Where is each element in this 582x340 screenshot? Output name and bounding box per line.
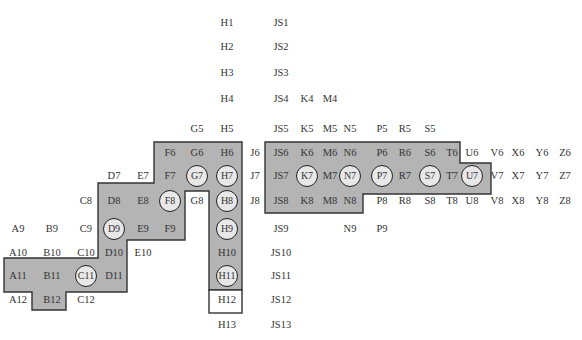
grid-label: JS1 <box>273 17 288 29</box>
grid-label: JS8 <box>273 195 288 207</box>
grid-label: H5 <box>221 123 234 135</box>
grid-label: E7 <box>137 170 149 182</box>
circled-grid-label: H9 <box>216 218 238 240</box>
grid-label: K5 <box>301 123 314 135</box>
grid-label: G5 <box>191 123 204 135</box>
circled-grid-label: H11 <box>216 265 238 287</box>
grid-label: B10 <box>43 247 61 259</box>
grid-label: JS5 <box>273 123 288 135</box>
grid-label: C8 <box>80 195 92 207</box>
grid-label: C9 <box>80 223 92 235</box>
grid-label: S8 <box>424 195 435 207</box>
grid-label: B9 <box>46 223 58 235</box>
grid-label: G8 <box>191 195 204 207</box>
grid-label: H4 <box>221 93 234 105</box>
grid-label: JS6 <box>273 147 288 159</box>
grid-label: P8 <box>376 195 387 207</box>
grid-label: B11 <box>43 270 60 282</box>
grid-label: R5 <box>399 123 411 135</box>
grid-label: G6 <box>191 147 204 159</box>
grid-label: A11 <box>9 270 27 282</box>
circled-grid-label: C11 <box>75 265 97 287</box>
grid-label: F6 <box>164 147 175 159</box>
grid-label: JS4 <box>273 93 288 105</box>
grid-label: S6 <box>424 147 435 159</box>
grid-label: Y8 <box>536 195 549 207</box>
grid-label: P9 <box>376 223 387 235</box>
circled-grid-label: N7 <box>339 165 361 187</box>
grid-label: U8 <box>466 195 479 207</box>
grid-label: JS9 <box>273 223 288 235</box>
grid-label: H6 <box>221 147 234 159</box>
grid-label: N9 <box>344 223 357 235</box>
circled-grid-label: H7 <box>216 165 238 187</box>
circled-grid-label: D9 <box>103 218 125 240</box>
grid-label: J8 <box>250 195 259 207</box>
grid-label: JS12 <box>271 294 291 306</box>
grid-label: Z6 <box>559 147 571 159</box>
grid-label: B12 <box>43 294 61 306</box>
grid-label: A9 <box>12 223 25 235</box>
grid-label: M6 <box>323 147 338 159</box>
grid-label: M5 <box>323 123 338 135</box>
grid-label: U6 <box>466 147 479 159</box>
grid-label: A10 <box>9 247 27 259</box>
grid-label: JS3 <box>273 67 288 79</box>
grid-label: K8 <box>301 195 314 207</box>
grid-label: H2 <box>221 41 234 53</box>
grid-label: E8 <box>137 195 149 207</box>
circled-grid-label: G7 <box>186 165 208 187</box>
grid-label: M4 <box>323 93 338 105</box>
grid-label: P6 <box>376 147 387 159</box>
grid-label: M8 <box>323 195 338 207</box>
grid-zone-diagram: H1JS1H2JS2H3JS3H4JS4K4M4G5H5JS5K5M5N5P5R… <box>0 0 582 340</box>
grid-label: N6 <box>344 147 357 159</box>
grid-label: X7 <box>512 170 525 182</box>
circled-grid-label: U7 <box>461 165 483 187</box>
grid-label: JS7 <box>273 170 288 182</box>
grid-label: H3 <box>221 67 234 79</box>
grid-label: T8 <box>446 195 458 207</box>
grid-label: K4 <box>301 93 314 105</box>
grid-label: D8 <box>108 195 121 207</box>
circled-grid-label: K7 <box>296 165 318 187</box>
grid-label: J6 <box>250 147 259 159</box>
grid-label: S5 <box>424 123 435 135</box>
grid-label: H12 <box>218 294 236 306</box>
grid-label: N5 <box>344 123 357 135</box>
grid-label: T7 <box>446 170 458 182</box>
grid-label: JS11 <box>271 270 291 282</box>
circled-grid-label: S7 <box>419 165 441 187</box>
grid-label: M7 <box>323 170 338 182</box>
grid-label: H1 <box>221 17 234 29</box>
grid-label: F7 <box>164 170 175 182</box>
grid-label: P5 <box>376 123 387 135</box>
grid-label: R6 <box>399 147 411 159</box>
grid-label: R7 <box>399 170 411 182</box>
grid-label: V8 <box>491 195 504 207</box>
grid-label: D10 <box>105 247 123 259</box>
grid-label: N8 <box>344 195 357 207</box>
grid-label: D11 <box>105 270 123 282</box>
grid-label: T6 <box>446 147 458 159</box>
circled-grid-label: H8 <box>216 190 238 212</box>
grid-label: K6 <box>301 147 314 159</box>
grid-label: V7 <box>491 170 504 182</box>
grid-label: D7 <box>108 170 121 182</box>
grid-label: H10 <box>218 247 236 259</box>
grid-label: C12 <box>77 294 95 306</box>
grid-label: Z7 <box>559 170 571 182</box>
grid-label: JS2 <box>273 41 288 53</box>
grid-label: E10 <box>135 247 152 259</box>
grid-label: X8 <box>512 195 525 207</box>
grid-label: F9 <box>164 223 175 235</box>
grid-label: JS13 <box>271 319 291 331</box>
grid-label: C10 <box>77 247 95 259</box>
grid-label: J7 <box>250 170 259 182</box>
grid-label: V6 <box>491 147 504 159</box>
grid-label: H13 <box>218 319 236 331</box>
grid-label: X6 <box>512 147 525 159</box>
grid-label: JS10 <box>271 247 291 259</box>
grid-label: Y7 <box>536 170 549 182</box>
grid-label: E9 <box>137 223 149 235</box>
